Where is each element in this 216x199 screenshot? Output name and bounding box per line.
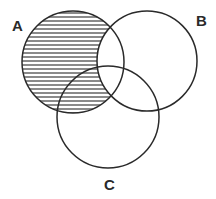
label-b: B — [196, 12, 207, 29]
label-c: C — [104, 176, 115, 193]
venn-diagram: A B C — [0, 0, 216, 199]
label-a: A — [12, 17, 23, 34]
